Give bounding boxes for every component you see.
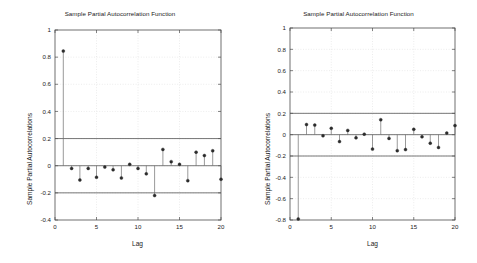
svg-text:5: 5 — [330, 223, 334, 230]
svg-text:20: 20 — [218, 223, 225, 230]
svg-text:-0.4: -0.4 — [275, 174, 286, 181]
svg-text:15: 15 — [176, 223, 183, 230]
plot-area-right: 05101520-0.8-0.6-0.4-0.200.20.40.60.81 — [240, 0, 477, 263]
svg-text:0.6: 0.6 — [278, 67, 287, 74]
svg-text:1: 1 — [283, 24, 287, 31]
plot-area-left: 05101520-0.4-0.200.20.40.60.81 — [0, 0, 240, 263]
svg-text:0: 0 — [283, 131, 287, 138]
svg-text:0.2: 0.2 — [43, 135, 52, 142]
svg-text:1: 1 — [48, 26, 52, 33]
svg-text:-0.2: -0.2 — [275, 152, 286, 159]
svg-text:10: 10 — [369, 223, 376, 230]
svg-text:15: 15 — [410, 223, 417, 230]
chart-panel-left: Sample Partial Autocorrelation Function … — [0, 0, 240, 263]
svg-text:-0.2: -0.2 — [40, 189, 51, 196]
svg-text:0: 0 — [53, 223, 57, 230]
svg-text:0.8: 0.8 — [43, 53, 52, 60]
svg-text:0: 0 — [288, 223, 292, 230]
svg-text:0.6: 0.6 — [43, 80, 52, 87]
figure-canvas: Sample Partial Autocorrelation Function … — [0, 0, 477, 263]
svg-text:10: 10 — [135, 223, 142, 230]
svg-text:0.4: 0.4 — [278, 88, 287, 95]
chart-panel-right: Sample Partial Autocorrelation Function … — [240, 0, 477, 263]
svg-text:-0.8: -0.8 — [275, 216, 286, 223]
svg-text:0: 0 — [48, 162, 52, 169]
svg-text:0.4: 0.4 — [43, 108, 52, 115]
svg-text:-0.4: -0.4 — [40, 216, 51, 223]
svg-text:5: 5 — [95, 223, 99, 230]
svg-text:-0.6: -0.6 — [275, 195, 286, 202]
svg-text:0.2: 0.2 — [278, 110, 287, 117]
svg-text:20: 20 — [452, 223, 459, 230]
svg-text:0.8: 0.8 — [278, 46, 287, 53]
